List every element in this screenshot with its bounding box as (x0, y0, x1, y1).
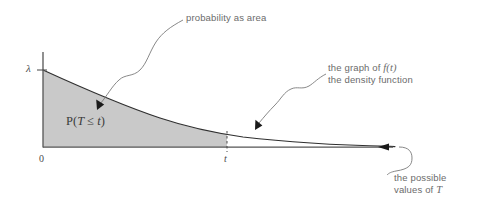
annotation-graph-of-line1: the graph of f(t) (328, 62, 413, 74)
leader-line-possible-values (387, 147, 412, 175)
annotation-probability-as-area: probability as area (186, 12, 266, 24)
annotation-graph-of-text: the graph of (328, 62, 383, 73)
arrow-icon-possible-values (378, 143, 389, 150)
shaded-region-label: P(T ≤ t) (66, 114, 105, 128)
annotation-graph-of-density: the graph of f(t) the density function (328, 62, 413, 86)
annotation-possible-values-text: values of (394, 184, 436, 195)
shaded-region-label-prefix: P( (66, 114, 77, 128)
x-axis-tick-label-t: t (224, 153, 227, 164)
annotation-possible-values-line1: the possible (394, 172, 447, 184)
annotation-density-function-line2: the density function (328, 74, 413, 86)
shaded-region-label-relation: ≤ (84, 114, 97, 128)
arrow-icon-density (255, 120, 262, 130)
annotation-graph-of-math: f(t) (383, 62, 396, 73)
annotation-probability-as-area-text: probability as area (186, 12, 266, 23)
y-axis-tick-label-lambda: λ (26, 63, 31, 74)
annotation-possible-values-math: T (436, 184, 442, 195)
annotation-possible-values-line2: values of T (394, 184, 447, 196)
annotation-possible-values: the possible values of T (394, 172, 447, 196)
shaded-region-label-suffix: ) (101, 114, 105, 128)
figure-exponential-density: probability as area the graph of f(t) th… (0, 0, 477, 212)
leader-line-density (259, 74, 326, 123)
leader-line-probability-area (100, 20, 183, 104)
x-axis-tick-label-origin: 0 (39, 153, 44, 164)
